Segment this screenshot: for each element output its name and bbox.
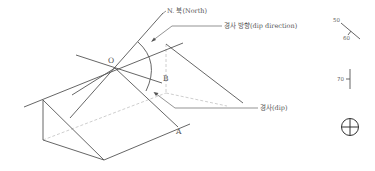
geologic-dip-diagram: O B A N. 북(North) 경사 방향(dip direction) 경… <box>0 0 375 171</box>
north-label: N. 북(North) <box>167 7 207 15</box>
dip-direction-label: 경사 방향(dip direction) <box>224 21 298 30</box>
dip-direction-leader <box>151 26 222 42</box>
point-b-label: B <box>163 74 169 83</box>
block-edges <box>24 43 243 160</box>
vertical-value: 70 <box>337 76 344 82</box>
point-o-label: O <box>108 56 114 65</box>
point-a-label: A <box>175 127 182 136</box>
dip-label: 경사(dip) <box>260 103 288 112</box>
reference-lines <box>70 13 163 118</box>
dip-value: 60 <box>343 35 350 41</box>
dip-direction-arc <box>138 42 151 91</box>
strike-dip-symbol: 50 60 <box>333 17 360 41</box>
north-leader <box>162 11 166 14</box>
strike-value: 50 <box>333 17 340 23</box>
dip-leader <box>154 92 259 108</box>
vertical-bed-symbol: 70 <box>337 69 350 89</box>
horizontal-bed-symbol <box>342 119 359 136</box>
hidden-edges <box>43 44 227 140</box>
